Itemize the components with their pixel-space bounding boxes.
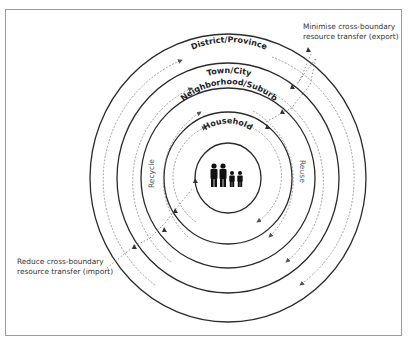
export-annotation-line2: resource transfer (export) <box>303 32 399 42</box>
scale-boundaries <box>90 34 366 322</box>
label-town: Town/City <box>206 66 253 78</box>
national-boundary <box>90 34 366 322</box>
label-national: National/Regional <box>187 0 271 2</box>
household-boundary <box>195 143 261 213</box>
label-neighborhood: Neighborhood/Suburb <box>179 77 279 103</box>
import-annotation-line1: Reduce cross-boundary <box>17 257 113 267</box>
neighborhood-boundary <box>164 112 292 244</box>
label-household: Household <box>202 116 254 132</box>
import-annotation-line2: resource transfer (import) <box>17 267 113 277</box>
export-markers <box>265 47 311 129</box>
recycle-label: Recycle <box>147 159 156 188</box>
import-annotation: Reduce cross-boundary resource transfer … <box>17 257 113 277</box>
town-boundary <box>141 88 315 268</box>
export-annotation: Minimise cross-boundary resource transfe… <box>303 22 399 42</box>
nested-circles-diagram: National/Regional District/Province Town… <box>0 0 411 343</box>
export-annotation-line1: Minimise cross-boundary <box>303 22 399 32</box>
family-icon <box>211 163 243 187</box>
reuse-label: Reuse <box>298 160 307 183</box>
